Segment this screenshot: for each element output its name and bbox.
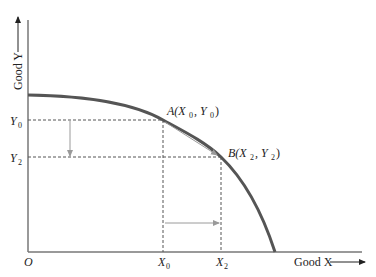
x0-label: X 0 [157, 255, 170, 271]
x2-label: X 2 [215, 255, 228, 271]
y-axis-label: Good Y [11, 52, 25, 90]
a-to-b-arrow-icon [165, 122, 217, 155]
ppf-curve [28, 95, 275, 252]
svg-text:2: 2 [271, 153, 275, 162]
point-a-label: A(X 0 , Y 0 ) [166, 104, 219, 120]
ppf-diagram: Good Y O Good X Y 0 Y 2 X 0 X 2 A(X 0 , … [0, 0, 376, 277]
point-b-label: B(X 2 , Y 2 ) [228, 146, 280, 162]
svg-text:): ) [215, 104, 219, 118]
svg-text:0: 0 [18, 121, 22, 130]
svg-text:X: X [215, 255, 224, 269]
svg-text:Y: Y [10, 114, 18, 128]
svg-text:0: 0 [166, 262, 170, 271]
svg-text:0: 0 [189, 111, 193, 120]
svg-text:2: 2 [18, 158, 22, 167]
x-axis-label: Good X [294, 255, 333, 269]
y2-label: Y 2 [10, 151, 22, 167]
svg-text:): ) [276, 146, 280, 160]
svg-text:, Y: , Y [255, 146, 269, 160]
svg-text:Y: Y [10, 151, 18, 165]
origin-label: O [24, 255, 33, 269]
y0-label: Y 0 [10, 114, 22, 130]
svg-text:0: 0 [210, 111, 214, 120]
svg-text:2: 2 [250, 153, 254, 162]
svg-text:A(X: A(X [166, 104, 186, 118]
svg-text:, Y: , Y [194, 104, 208, 118]
svg-text:X: X [157, 255, 166, 269]
svg-text:2: 2 [224, 262, 228, 271]
svg-text:B(X: B(X [228, 146, 247, 160]
